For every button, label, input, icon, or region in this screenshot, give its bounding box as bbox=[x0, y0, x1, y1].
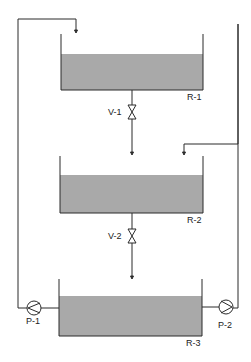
valve-v1-icon bbox=[128, 105, 136, 119]
reactor-r3-label: R-3 bbox=[186, 338, 201, 348]
valve-v2-label: V-2 bbox=[108, 231, 122, 241]
valve-v1-label: V-1 bbox=[108, 107, 122, 117]
reactor-r1-liquid bbox=[61, 54, 203, 90]
reactor-r3: R-3 bbox=[59, 279, 202, 348]
pump-p2-label: P-2 bbox=[218, 320, 232, 330]
reactor-r2-label: R-2 bbox=[187, 215, 202, 225]
reactor-r1-label: R-1 bbox=[187, 92, 202, 102]
reactor-r2-liquid bbox=[60, 175, 203, 213]
pump-p2-icon bbox=[219, 300, 233, 314]
transfer-line-r1-r2 bbox=[131, 90, 134, 155]
process-diagram: R-1 V-1 R-2 V-2 R-3 P bbox=[0, 0, 251, 362]
transfer-line-r2-r3 bbox=[131, 213, 134, 279]
pump-p1-label: P-1 bbox=[26, 316, 40, 326]
pump-p1-icon bbox=[27, 301, 41, 315]
reactor-r3-liquid bbox=[59, 296, 202, 336]
valve-v2-icon bbox=[128, 229, 136, 243]
